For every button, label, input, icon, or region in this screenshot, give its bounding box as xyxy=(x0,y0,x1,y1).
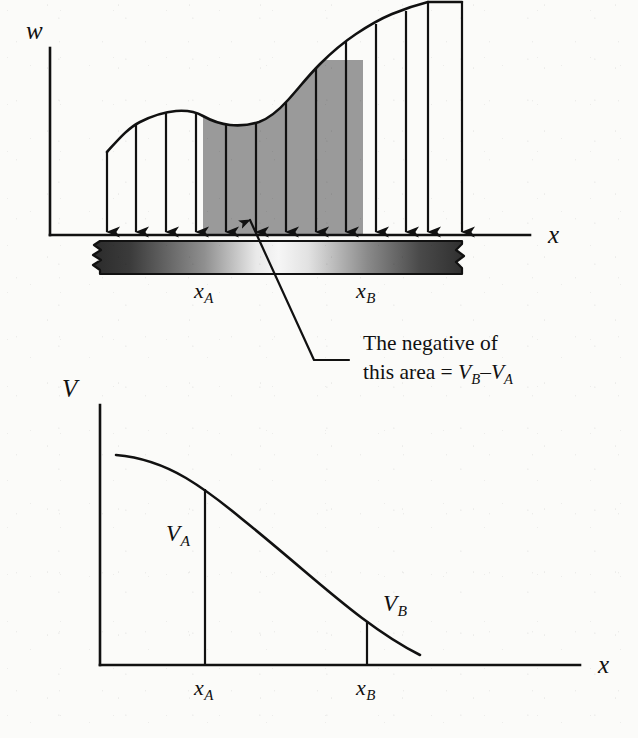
load-diagram-group xyxy=(50,2,530,274)
annotation-line-1: The negative of xyxy=(363,330,498,358)
VA-magnitude-label: VA xyxy=(166,522,190,549)
VA-base: V xyxy=(166,521,180,546)
load-tick-xA-base: x xyxy=(194,278,204,303)
annotation-line-2: this area = VB–VA xyxy=(363,359,513,389)
shear-tick-xA-sub: A xyxy=(204,687,214,703)
shear-tick-label-xA: xA xyxy=(194,677,213,703)
VB-sub: B xyxy=(397,602,407,619)
load-x-axis-label: x xyxy=(548,222,559,247)
shear-tick-xB-sub: B xyxy=(366,687,376,703)
V-axis-label: V xyxy=(62,376,77,401)
figure-svg xyxy=(0,0,638,738)
load-tick-xB-sub: B xyxy=(366,290,376,306)
load-tick-label-xB: xB xyxy=(356,280,375,306)
VA-sub: A xyxy=(180,532,190,549)
figure-root: w x xA xB The negative of this area = VB… xyxy=(0,0,638,738)
load-tick-xB-base: x xyxy=(356,278,366,303)
VB-magnitude-label: VB xyxy=(383,592,407,619)
w-axis-label: w xyxy=(26,18,43,43)
annotation-VB-sub: B xyxy=(471,371,480,387)
beam-bar xyxy=(93,241,464,274)
annotation-VA-base: V xyxy=(491,360,504,384)
shaded-load-area xyxy=(107,2,462,235)
shear-force-curve xyxy=(116,455,420,655)
shear-x-axis-label: x xyxy=(598,652,609,677)
shear-tick-label-xB: xB xyxy=(356,677,375,703)
load-tick-label-xA: xA xyxy=(194,280,213,306)
annotation-line-2-prefix: this area = xyxy=(363,360,458,384)
VB-base: V xyxy=(383,591,397,616)
shear-tick-xA-base: x xyxy=(194,675,204,700)
load-tick-xA-sub: A xyxy=(204,290,214,306)
shear-tick-xB-base: x xyxy=(356,675,366,700)
annotation-minus-operator: – xyxy=(480,360,491,384)
annotation-VA-sub: A xyxy=(504,371,513,387)
annotation-VB-base: V xyxy=(458,360,471,384)
